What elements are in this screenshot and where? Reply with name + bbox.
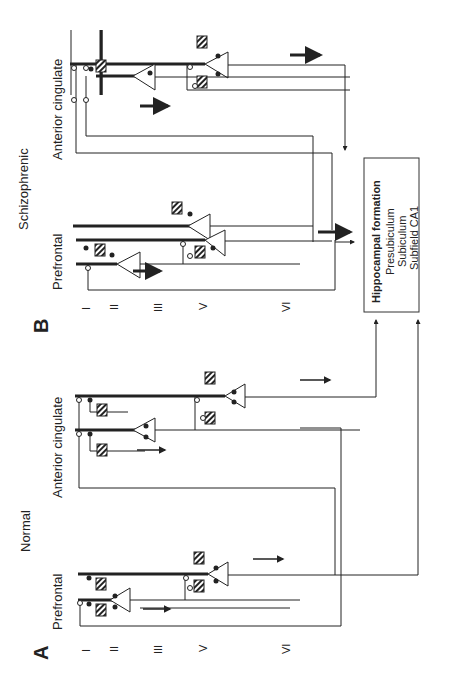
panel-b-layer-VI: VI — [280, 302, 292, 312]
panel-a-letter: A — [30, 646, 52, 660]
box-item-presubiculum: Presubiculum — [384, 208, 396, 275]
panel-b-region-anterior-cingulate: Anterior cingulate — [50, 59, 65, 160]
panel-b-layer-V: V — [197, 302, 209, 310]
panel-b-anterior-cingulate-circuit — [70, 30, 350, 242]
panel-a-prefrontal-circuit — [78, 320, 418, 626]
panel-a-condition: Normal — [18, 510, 33, 552]
panel-b-condition: Schizophrenic — [16, 148, 31, 230]
box-item-subiculum: Subiculum — [396, 216, 408, 267]
box-title: Hippocampal formation — [370, 180, 382, 303]
box-item-subfield-ca1: Subfield CA1 — [408, 206, 420, 270]
panel-a-layer-III: III — [152, 645, 164, 654]
panel-b-pf-interneurons — [84, 202, 216, 271]
panel-a-region-prefrontal: Prefrontal — [50, 574, 65, 630]
panel-a-pf-interneurons — [78, 552, 219, 616]
panel-b-layer-I: I — [80, 307, 92, 310]
panel-a-layer-V: V — [197, 644, 209, 652]
panel-a-layer-VI: VI — [280, 644, 292, 654]
panel-b: B Schizophrenic Prefrontal Anterior cing… — [16, 30, 354, 333]
panel-b-layer-III: III — [152, 303, 164, 312]
panel-b-layer-II: II — [108, 304, 120, 310]
diagram-canvas: B Schizophrenic Prefrontal Anterior cing… — [0, 0, 450, 684]
panel-a-layer-I: I — [80, 649, 92, 652]
panel-b-letter: B — [30, 319, 52, 333]
hippocampal-formation-box: Hippocampal formation Presubiculum Subic… — [364, 158, 420, 312]
panel-a-region-anterior-cingulate: Anterior cingulate — [50, 397, 65, 498]
panel-a-layer-II: II — [108, 646, 120, 652]
panel-a: A Normal Prefrontal Anterior cingulate I… — [18, 320, 418, 660]
panel-a-anterior-cingulate-circuit — [75, 320, 376, 488]
panel-b-region-prefrontal: Prefrontal — [50, 234, 65, 290]
panel-a-ac-interneurons — [77, 372, 237, 456]
panel-b-prefrontal-circuit — [73, 214, 354, 290]
